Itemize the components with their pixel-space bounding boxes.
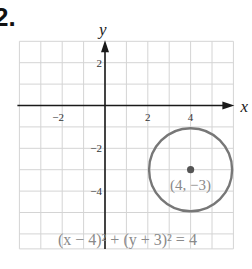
center-point-label: (4, −3) <box>170 177 211 194</box>
x-tick-label: 4 <box>188 111 194 123</box>
center-point <box>187 166 194 173</box>
x-axis-arrow-icon <box>222 102 234 110</box>
circle-equation: (x − 4)² + (y + 3)² = 4 <box>58 231 197 249</box>
grid-lines <box>19 41 233 249</box>
coordinate-plane: xy−2242−2−4(4, −3)(x − 4)² + (y + 3)² = … <box>0 0 252 269</box>
y-tick-label: −2 <box>90 142 102 154</box>
x-axis-label: x <box>239 97 248 116</box>
y-axis-arrow-icon <box>101 40 109 52</box>
x-tick-label: 2 <box>145 111 151 123</box>
y-tick-label: 2 <box>97 57 103 69</box>
y-axis-label: y <box>97 20 107 39</box>
y-tick-label: −4 <box>90 185 102 197</box>
x-tick-label: −2 <box>52 111 64 123</box>
axis-labels: xy−2242−2−4(4, −3)(x − 4)² + (y + 3)² = … <box>52 20 248 249</box>
